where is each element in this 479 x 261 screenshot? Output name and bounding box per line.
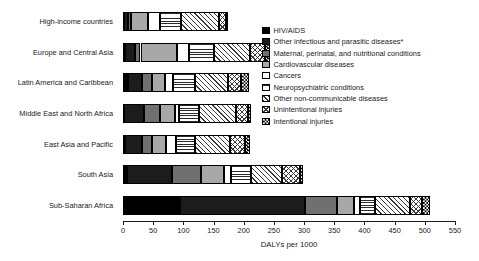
legend-item: Cancers	[262, 70, 421, 81]
x-axis-tick-label: 250	[268, 226, 280, 235]
legend-swatch-icon	[262, 38, 270, 45]
x-axis-tick	[395, 221, 396, 225]
chart-figure: High-income countriesEurope and Central …	[0, 0, 479, 261]
bar-segment	[179, 104, 199, 123]
bar-segment	[142, 73, 152, 92]
bar-segment	[230, 135, 245, 154]
bar-segment	[142, 135, 152, 154]
bar-segment	[201, 165, 224, 184]
bar-segment	[282, 165, 300, 184]
x-axis-tick-label: 150	[207, 226, 219, 235]
bar-segment	[160, 104, 175, 123]
x-axis-tick-label: 300	[298, 226, 310, 235]
x-axis-tick	[153, 221, 154, 225]
legend-swatch-icon	[262, 72, 270, 79]
legend-item: Other non-communicable diseases	[262, 93, 421, 104]
legend-item: Other infectious and parasitic diseases*	[262, 36, 421, 47]
bar-segment	[226, 12, 228, 31]
bar-segment	[195, 135, 230, 154]
bar-segment	[141, 43, 178, 62]
x-axis-tick	[183, 221, 184, 225]
bar-segment	[245, 135, 250, 154]
bar-segment	[228, 73, 241, 92]
x-axis-tick	[455, 221, 456, 225]
x-axis-tick-label: 350	[328, 226, 340, 235]
x-axis-tick	[304, 221, 305, 225]
legend-label: Cardiovascular diseases	[274, 60, 355, 69]
x-axis-tick-label: 500	[419, 226, 431, 235]
bar-segment	[180, 196, 305, 215]
category-label: Latin America and Caribbean	[18, 78, 113, 87]
bar-segment	[219, 12, 226, 31]
legend-swatch-icon	[262, 61, 270, 68]
legend-label: HIV/AIDS	[274, 26, 306, 35]
legend-swatch-icon	[262, 27, 270, 34]
bar-segment	[337, 196, 353, 215]
legend-item: Maternal, perinatal, and nutritional con…	[262, 48, 421, 59]
category-label: Europe and Central Asia	[33, 48, 113, 57]
bar-segment	[410, 196, 421, 215]
x-axis-tick-label: 400	[358, 226, 370, 235]
bar-segment	[165, 73, 173, 92]
legend-label: Unintentional injuries	[274, 105, 343, 114]
legend-item: HIV/AIDS	[262, 25, 421, 36]
bar-segment	[125, 43, 135, 62]
bar-segment	[131, 12, 148, 31]
bar-segment	[123, 196, 180, 215]
category-axis-labels: High-income countriesEurope and Central …	[0, 0, 117, 221]
bar-segment	[152, 135, 166, 154]
bar-segment	[300, 165, 304, 184]
legend-label: Other non-communicable diseases	[274, 94, 388, 103]
bar-segment	[125, 135, 142, 154]
legend-item: Neuropsychiatric conditions	[262, 81, 421, 92]
x-axis-tick-label: 550	[449, 226, 461, 235]
legend-swatch-icon	[262, 95, 270, 102]
x-axis-title: DALYs per 1000	[123, 240, 455, 249]
x-axis-tick	[334, 221, 335, 225]
bar-row	[123, 12, 228, 31]
bar-row	[123, 165, 303, 184]
bar-segment	[231, 165, 251, 184]
bar-segment	[160, 12, 181, 31]
bar-segment	[152, 73, 165, 92]
bar-segment	[236, 104, 247, 123]
bar-segment	[173, 73, 195, 92]
bar-row	[123, 73, 249, 92]
legend-label: Other infectious and parasitic diseases*	[274, 37, 404, 46]
legend-swatch-icon	[262, 118, 270, 125]
bar-segment	[127, 165, 172, 184]
legend-swatch-icon	[262, 84, 270, 91]
category-label: South Asia	[78, 170, 113, 179]
x-axis-tick	[123, 221, 124, 225]
bar-segment	[360, 196, 376, 215]
bar-segment	[189, 43, 213, 62]
legend-label: Maternal, perinatal, and nutritional con…	[274, 49, 421, 58]
legend-swatch-icon	[262, 50, 270, 57]
bar-segment	[251, 165, 282, 184]
bar-row	[123, 135, 250, 154]
x-axis-tick-label: 50	[149, 226, 157, 235]
x-axis-tick-label: 0	[121, 226, 125, 235]
legend-swatch-icon	[262, 106, 270, 113]
bar-segment	[248, 104, 251, 123]
category-label: East Asia and Pacific	[44, 140, 113, 149]
bar-segment	[305, 196, 337, 215]
x-axis-tick	[274, 221, 275, 225]
bar-segment	[375, 196, 410, 215]
bar-segment	[128, 73, 142, 92]
x-axis-line	[123, 221, 455, 222]
x-axis-tick	[425, 221, 426, 225]
bar-segment	[144, 104, 160, 123]
bar-segment	[224, 165, 231, 184]
legend-item: Cardiovascular diseases	[262, 59, 421, 70]
legend-label: Neuropsychiatric conditions	[274, 83, 364, 92]
bar-segment	[124, 104, 143, 123]
legend-label: Intentional injuries	[274, 117, 334, 126]
bar-segment	[166, 135, 175, 154]
bar-segment	[181, 12, 219, 31]
bar-segment	[177, 43, 189, 62]
bar-segment	[148, 12, 160, 31]
chart-legend: HIV/AIDSOther infectious and parasitic d…	[262, 25, 421, 127]
x-axis-tick	[364, 221, 365, 225]
bar-row	[123, 104, 251, 123]
